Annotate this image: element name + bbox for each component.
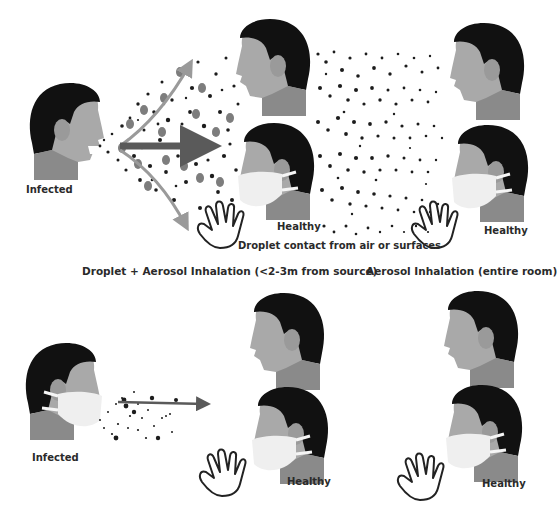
healthy-label-top-far: Healthy bbox=[484, 225, 528, 236]
healthy-label-top-near: Healthy bbox=[277, 221, 321, 232]
healthy-person-top-near-masked bbox=[238, 123, 314, 220]
infected-person-top bbox=[30, 83, 104, 180]
infected-label-top: Infected bbox=[26, 184, 73, 195]
hand-icon bbox=[398, 454, 444, 501]
healthy-person-bottom-near-masked bbox=[252, 387, 328, 484]
healthy-person-bottom-near-unmasked bbox=[250, 293, 324, 390]
near-zone-caption: Droplet + Aerosol Inhalation (<2-3m from… bbox=[82, 265, 377, 277]
hand-icon bbox=[200, 450, 246, 497]
sparse-particles bbox=[99, 391, 178, 440]
hand-icon bbox=[198, 202, 244, 249]
healthy-person-bottom-far-masked bbox=[446, 385, 522, 482]
spread-arrows-top bbox=[120, 64, 208, 226]
spread-arrow-bottom bbox=[118, 402, 206, 404]
healthy-person-bottom-far-unmasked bbox=[444, 291, 518, 388]
healthy-person-top-far-unmasked bbox=[450, 23, 524, 120]
healthy-label-bottom-far: Healthy bbox=[482, 478, 526, 489]
far-zone-caption: Aerosol Inhalation (entire room) bbox=[366, 265, 557, 277]
contact-caption: Droplet contact from air or surfaces bbox=[238, 240, 441, 251]
infected-label-bottom: Infected bbox=[32, 452, 79, 463]
healthy-person-top-far-masked bbox=[452, 125, 528, 222]
healthy-label-bottom-near: Healthy bbox=[287, 476, 331, 487]
infected-person-bottom-masked bbox=[26, 343, 102, 440]
healthy-person-top-near-unmasked bbox=[236, 19, 310, 116]
